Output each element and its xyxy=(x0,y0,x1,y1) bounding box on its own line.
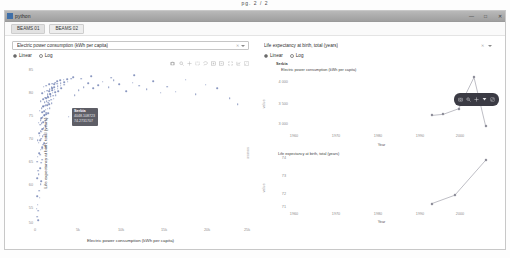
box-select-icon[interactable] xyxy=(195,61,200,66)
scatter-point[interactable] xyxy=(45,104,47,106)
scatter-point[interactable] xyxy=(41,131,43,133)
tab-beams-02[interactable]: BEAMS 02 xyxy=(49,24,83,34)
scatter-point[interactable] xyxy=(60,85,62,87)
scatter-point[interactable] xyxy=(160,92,162,94)
minimize-icon[interactable]: — xyxy=(468,14,475,19)
scatter-point[interactable] xyxy=(237,103,239,105)
scatter-point[interactable] xyxy=(132,82,134,84)
scatter-point[interactable] xyxy=(37,139,39,141)
scatter-point[interactable] xyxy=(37,204,39,206)
scatter-point[interactable] xyxy=(36,208,38,210)
scatter-point[interactable] xyxy=(67,78,69,80)
window-titlebar[interactable]: python — □ ✕ xyxy=(5,11,505,22)
maximize-icon[interactable]: □ xyxy=(482,14,489,19)
scatter-point[interactable] xyxy=(40,119,42,121)
scatter-point[interactable] xyxy=(51,102,53,104)
scatter-point[interactable] xyxy=(55,94,57,96)
scatter-point[interactable] xyxy=(229,97,231,99)
scatter-point[interactable] xyxy=(39,135,41,137)
scatter-point[interactable] xyxy=(46,90,48,92)
right-radio-linear[interactable]: Linear xyxy=(264,53,283,58)
scatter-point[interactable] xyxy=(54,86,56,88)
scatter-point[interactable] xyxy=(92,88,94,90)
scatter-point[interactable] xyxy=(47,95,49,97)
scatter-point[interactable] xyxy=(38,122,40,124)
scatter-point[interactable] xyxy=(44,125,46,127)
scatter-point[interactable] xyxy=(119,83,121,85)
scatter-point[interactable] xyxy=(56,83,58,85)
scatter-point[interactable] xyxy=(49,90,51,92)
scatter-point[interactable] xyxy=(63,84,65,86)
scatter-point[interactable] xyxy=(59,80,61,82)
scatter-point[interactable] xyxy=(37,177,39,179)
scatter-point[interactable] xyxy=(50,99,52,101)
scatter-point[interactable] xyxy=(54,89,56,91)
scatter-point[interactable] xyxy=(60,82,62,84)
autoscale-icon[interactable] xyxy=(228,61,233,66)
scatter-point[interactable] xyxy=(72,76,74,78)
scatter-point[interactable] xyxy=(53,84,55,86)
scatter-point[interactable] xyxy=(110,77,112,79)
scatter-point[interactable] xyxy=(44,91,46,93)
scatter-point[interactable] xyxy=(40,183,42,185)
scatter-point[interactable] xyxy=(41,148,43,150)
zoom-icon[interactable] xyxy=(466,97,471,102)
zoom-in-icon[interactable] xyxy=(211,61,216,66)
scatter-point[interactable] xyxy=(41,108,43,110)
scatter-point[interactable] xyxy=(38,142,40,144)
scatter-point[interactable] xyxy=(42,136,44,138)
lasso-select-icon[interactable] xyxy=(203,61,208,66)
zoom-icon[interactable] xyxy=(179,61,184,66)
camera-icon[interactable] xyxy=(170,61,175,66)
scatter-point[interactable] xyxy=(153,81,155,83)
scatter-point[interactable] xyxy=(146,88,148,90)
left-radio-linear[interactable]: Linear xyxy=(13,53,32,58)
scatter-point[interactable] xyxy=(46,119,48,121)
scatter-point[interactable] xyxy=(52,95,54,97)
plotly-logo-icon[interactable] xyxy=(490,97,495,102)
scatter-point[interactable] xyxy=(48,84,50,86)
scatter-point[interactable] xyxy=(54,82,56,84)
scatter-point[interactable] xyxy=(42,98,44,100)
scatter-point[interactable] xyxy=(91,75,93,77)
scatter-point[interactable] xyxy=(175,91,177,93)
scatter-point[interactable] xyxy=(44,114,46,116)
scatter-point[interactable] xyxy=(43,86,45,88)
scatter-point[interactable] xyxy=(47,102,49,104)
x-metric-dropdown[interactable]: Electric power consumption (kWh per capi… xyxy=(12,41,249,50)
scatter-point[interactable] xyxy=(68,116,70,118)
left-radio-log[interactable]: Log xyxy=(39,53,53,58)
scatter-point[interactable] xyxy=(43,134,45,136)
scatter-point[interactable] xyxy=(52,92,54,94)
line-marker[interactable] xyxy=(430,202,433,205)
scatter-point[interactable] xyxy=(63,79,65,81)
scatter-point[interactable] xyxy=(57,91,59,93)
scatter-point[interactable] xyxy=(43,143,45,145)
line-marker[interactable] xyxy=(484,124,487,127)
scatter-point[interactable] xyxy=(54,91,56,93)
scatter-point[interactable] xyxy=(167,86,169,88)
zoom-out-icon[interactable] xyxy=(219,61,224,66)
scatter-point[interactable] xyxy=(52,87,54,89)
scatter-point[interactable] xyxy=(50,95,52,97)
scatter-point[interactable] xyxy=(185,79,187,81)
scatter-point[interactable] xyxy=(38,170,40,172)
camera-icon[interactable] xyxy=(458,97,463,102)
scatter-plot[interactable]: 85 80 75 70 65 60 55 50 0 5k 10k 15k 20k… xyxy=(9,60,252,245)
autoscale-icon[interactable] xyxy=(482,97,487,102)
scatter-point[interactable] xyxy=(195,94,197,96)
y-metric-dropdown[interactable]: Life expectancy at birth, total (years) … xyxy=(263,41,500,50)
scatter-point[interactable] xyxy=(43,105,45,107)
scatter-point[interactable] xyxy=(40,100,42,102)
plotly-logo-icon[interactable] xyxy=(244,61,249,66)
scatter-point[interactable] xyxy=(57,88,59,90)
scatter-point[interactable] xyxy=(47,112,49,114)
pan-icon[interactable] xyxy=(474,97,479,102)
life-line-area[interactable] xyxy=(290,158,497,206)
scatter-point[interactable] xyxy=(41,92,43,94)
reset-axes-icon[interactable] xyxy=(236,61,241,66)
scatter-point[interactable] xyxy=(71,78,73,80)
scatter-point[interactable] xyxy=(49,94,51,96)
tab-beams-01[interactable]: BEAMS 01 xyxy=(11,24,45,34)
clear-icon[interactable]: ✕ xyxy=(236,43,239,47)
